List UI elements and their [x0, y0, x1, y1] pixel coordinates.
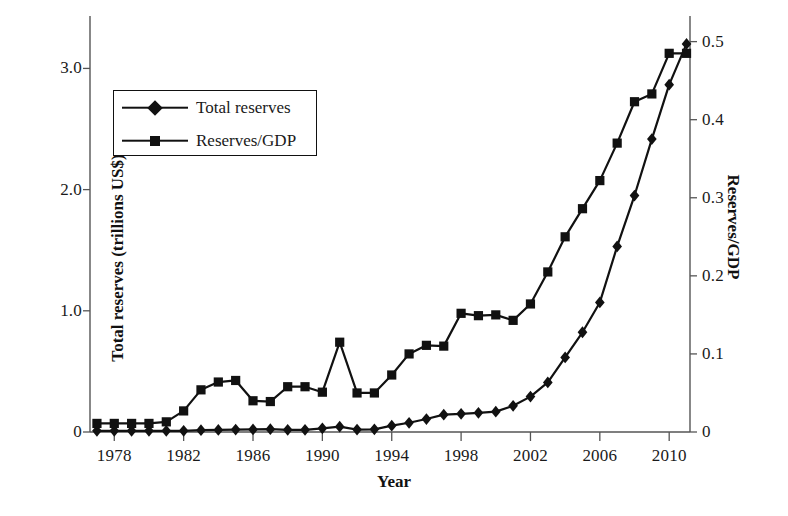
data-point-1-3 — [144, 419, 153, 428]
data-point-1-27 — [561, 232, 570, 241]
y-axis-right-tick-5: 0.5 — [702, 32, 724, 52]
data-point-0-32 — [647, 133, 657, 145]
data-point-1-31 — [630, 97, 639, 106]
x-axis-tick-3: 1990 — [305, 446, 340, 466]
data-point-0-19 — [422, 413, 432, 425]
data-point-1-32 — [647, 89, 656, 98]
data-point-0-7 — [213, 424, 223, 436]
x-axis-tick-6: 2002 — [513, 446, 548, 466]
data-point-1-2 — [127, 419, 136, 428]
y-axis-left-tick-3: 3.0 — [30, 58, 82, 78]
data-point-1-16 — [370, 388, 379, 397]
data-point-0-9 — [248, 424, 258, 436]
data-point-0-4 — [161, 425, 171, 437]
data-point-0-6 — [196, 424, 206, 436]
y-axis-left-tick-2: 2.0 — [30, 180, 82, 200]
data-point-1-13 — [318, 388, 327, 397]
chart-figure: 01.02.03.0 00.10.20.30.40.5 197819821986… — [0, 0, 788, 516]
data-point-0-12 — [300, 424, 310, 436]
data-point-0-23 — [491, 406, 501, 418]
data-point-0-17 — [387, 420, 397, 432]
data-point-0-5 — [179, 425, 189, 437]
data-point-1-12 — [300, 382, 309, 391]
data-point-1-18 — [404, 349, 413, 358]
legend-square-marker-icon — [122, 130, 188, 152]
data-point-0-22 — [474, 407, 484, 419]
data-point-1-6 — [196, 385, 205, 394]
legend-label-total-reserves: Total reserves — [196, 98, 291, 118]
data-point-0-24 — [508, 400, 518, 412]
data-point-1-28 — [578, 204, 587, 213]
data-point-1-7 — [214, 377, 223, 386]
data-point-0-31 — [630, 190, 640, 202]
data-point-0-21 — [456, 408, 466, 420]
data-point-0-30 — [612, 241, 622, 253]
x-axis-tick-4: 1994 — [374, 446, 409, 466]
data-point-1-26 — [543, 267, 552, 276]
x-axis-tick-2: 1986 — [236, 446, 271, 466]
data-point-1-5 — [179, 406, 188, 415]
x-axis-tick-0: 1978 — [97, 446, 132, 466]
legend-item-reserves-gdp: Reserves/GDP — [114, 124, 316, 157]
data-point-0-14 — [335, 421, 345, 433]
data-point-1-24 — [509, 316, 518, 325]
data-point-1-21 — [457, 309, 466, 318]
legend-item-total-reserves: Total reserves — [114, 91, 316, 124]
x-axis-tick-1: 1982 — [166, 446, 201, 466]
data-point-0-10 — [266, 423, 276, 435]
y-axis-right-tick-1: 0.1 — [702, 344, 724, 364]
data-point-1-0 — [92, 419, 101, 428]
data-point-1-15 — [352, 388, 361, 397]
data-point-1-25 — [526, 299, 535, 308]
data-point-1-4 — [162, 417, 171, 426]
x-axis-tick-7: 2006 — [582, 446, 617, 466]
legend-diamond-marker-icon — [122, 97, 188, 119]
x-axis-title: Year — [377, 472, 411, 492]
data-point-1-8 — [231, 376, 240, 385]
y-axis-right-tick-3: 0.3 — [702, 188, 724, 208]
y-axis-left-tick-0: 0 — [30, 422, 82, 442]
data-point-1-29 — [595, 176, 604, 185]
data-point-1-30 — [613, 139, 622, 148]
y-axis-right-tick-4: 0.4 — [702, 110, 724, 130]
data-point-1-20 — [439, 342, 448, 351]
data-point-1-23 — [491, 310, 500, 319]
x-axis-tick-8: 2010 — [652, 446, 687, 466]
data-point-1-9 — [248, 396, 257, 405]
data-point-1-34 — [682, 49, 691, 58]
data-point-0-11 — [283, 424, 293, 436]
data-point-0-33 — [664, 79, 674, 91]
data-point-0-16 — [370, 423, 380, 435]
data-point-1-1 — [110, 419, 119, 428]
data-point-1-11 — [283, 382, 292, 391]
data-point-0-8 — [231, 424, 241, 436]
y-axis-right-tick-2: 0.2 — [702, 266, 724, 286]
data-point-0-18 — [404, 417, 414, 429]
data-point-1-10 — [266, 397, 275, 406]
data-point-1-19 — [422, 341, 431, 350]
x-axis-tick-5: 1998 — [444, 446, 479, 466]
chart-legend: Total reserves Reserves/GDP — [113, 90, 317, 156]
data-point-0-15 — [352, 424, 362, 436]
data-point-1-33 — [665, 49, 674, 58]
y-axis-right-tick-0: 0 — [702, 422, 711, 442]
y-axis-left-tick-1: 1.0 — [30, 301, 82, 321]
y-axis-right-title: Reserves/GDP — [724, 175, 744, 280]
data-point-1-14 — [335, 338, 344, 347]
data-point-1-17 — [387, 370, 396, 379]
data-point-0-20 — [439, 409, 449, 421]
y-axis-left-title: Total reserves (trillions US$) — [108, 154, 128, 361]
legend-label-reserves-gdp: Reserves/GDP — [196, 131, 296, 151]
data-point-1-22 — [474, 311, 483, 320]
